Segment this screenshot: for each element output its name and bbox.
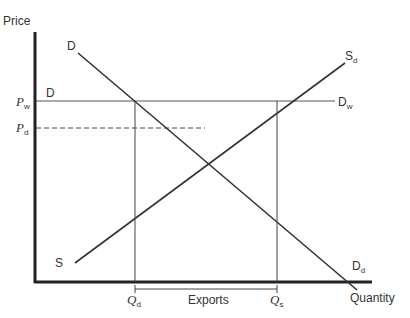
x-axis-label: Quantity: [350, 291, 395, 305]
y-axis-label: Price: [3, 14, 31, 28]
world-price-label: Pw: [15, 94, 30, 111]
demand-label-end: Dd: [352, 259, 365, 275]
domestic-price-label: Pd: [15, 120, 28, 137]
demand-label-top: D: [67, 39, 76, 53]
world-line-label-end: Dw: [338, 95, 353, 111]
world-line-label-start: D: [46, 86, 55, 100]
supply-label-end: Sd: [345, 49, 357, 65]
exports-label: Exports: [188, 293, 229, 307]
supply-demand-diagram: Price Quantity D D S Sd Dw Dd Pw Pd Qd Q…: [0, 0, 410, 318]
supply-label-start: S: [55, 256, 63, 270]
demand-curve: [78, 53, 357, 290]
qs-label: Qs: [270, 292, 283, 309]
qd-label: Qd: [127, 292, 141, 309]
supply-curve: [75, 63, 345, 263]
